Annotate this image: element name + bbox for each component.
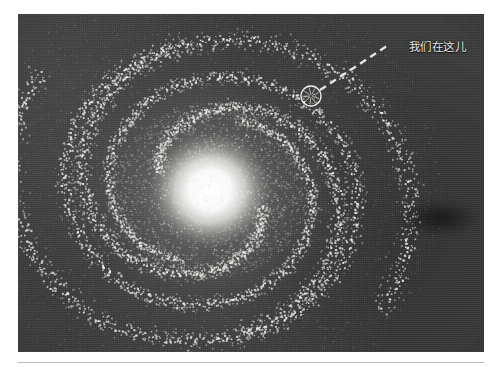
- dashed-leader-line: [320, 44, 390, 90]
- footer-divider-rule: [18, 362, 484, 363]
- galaxy-illustration: [18, 14, 484, 352]
- figure-page: 我们在这儿: [0, 0, 504, 367]
- annotation-label: 我们在这儿: [409, 40, 466, 54]
- annotation-graphics: [301, 44, 390, 106]
- galaxy-photograph: 我们在这儿: [18, 14, 484, 352]
